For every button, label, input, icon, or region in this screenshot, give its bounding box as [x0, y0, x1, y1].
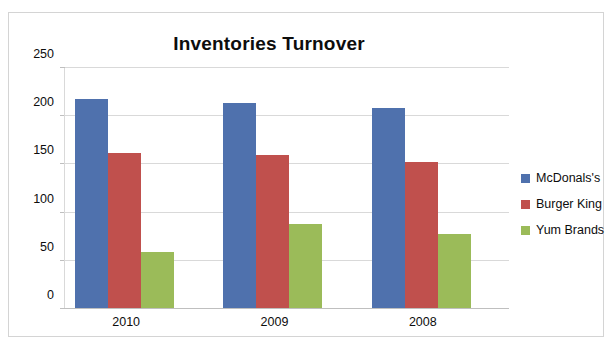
bar-2009-series-2[interactable]	[289, 224, 322, 309]
bar-2010-series-0[interactable]	[75, 99, 108, 309]
chart-frame: Inventories Turnover 050100150200250 201…	[8, 12, 604, 337]
y-axis-label-100: 100	[10, 192, 54, 206]
chart-page: Inventories Turnover 050100150200250 201…	[0, 0, 614, 350]
plot-area: 050100150200250	[64, 68, 509, 309]
bar-2008-series-2[interactable]	[438, 234, 471, 309]
bar-2008-series-0[interactable]	[372, 108, 405, 309]
y-axis-label-250: 250	[10, 47, 54, 61]
legend-label-1: Burger King	[536, 197, 602, 211]
bar-2010-series-1[interactable]	[108, 153, 141, 309]
bar-2009-series-1[interactable]	[256, 155, 289, 309]
legend-swatch-icon-1	[521, 200, 530, 209]
y-axis-label-200: 200	[10, 95, 54, 109]
y-axis-line	[64, 68, 65, 309]
chart-legend: McDonals'sBurger KingYum Brands	[521, 165, 601, 243]
x-axis-label-2009: 2009	[212, 315, 360, 329]
legend-item-0[interactable]: McDonals's	[521, 165, 601, 191]
bar-group-2009	[212, 68, 360, 309]
y-axis-label-0: 0	[10, 288, 54, 302]
legend-item-1[interactable]: Burger King	[521, 191, 601, 217]
bar-groups	[64, 68, 509, 309]
bar-2008-series-1[interactable]	[405, 162, 438, 309]
bar-group-2008	[361, 68, 509, 309]
legend-label-2: Yum Brands	[536, 223, 604, 237]
y-axis-label-150: 150	[10, 143, 54, 157]
bar-2009-series-0[interactable]	[223, 103, 256, 309]
legend-label-0: McDonals's	[536, 171, 600, 185]
legend-swatch-icon-0	[521, 174, 530, 183]
y-axis-label-50: 50	[10, 240, 54, 254]
bar-group-2010	[64, 68, 212, 309]
bar-2010-series-2[interactable]	[141, 252, 174, 309]
legend-swatch-icon-2	[521, 226, 530, 235]
legend-item-2[interactable]: Yum Brands	[521, 217, 601, 243]
x-axis-label-2010: 2010	[64, 315, 212, 329]
x-axis-label-2008: 2008	[361, 315, 509, 329]
x-axis-labels: 201020092008	[64, 315, 509, 329]
chart-title: Inventories Turnover	[9, 33, 529, 55]
x-axis-line	[64, 308, 509, 309]
